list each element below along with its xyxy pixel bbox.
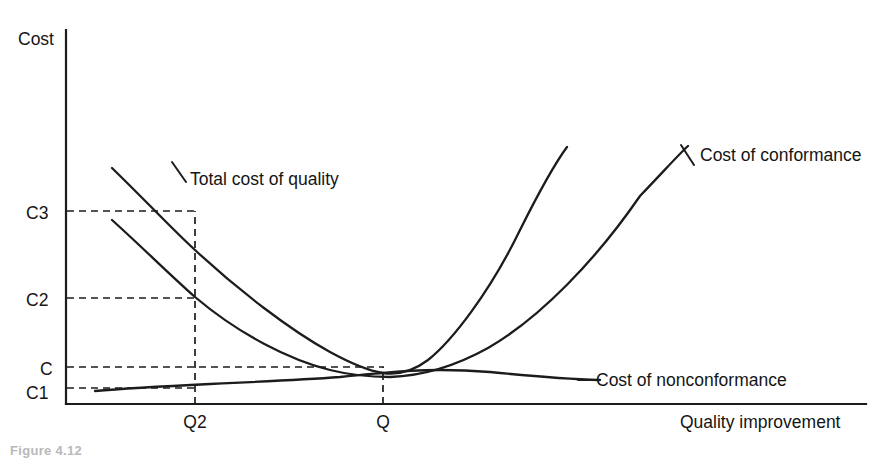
y-tick-label-c1: C1 [26, 383, 48, 403]
figure-root: Cost Quality improvement C3 C2 C C1 Q2 Q… [0, 0, 892, 460]
series-label-cost-of-nonconformance: Cost of nonconformance [596, 370, 787, 390]
y-tick-label-c3: C3 [26, 203, 48, 223]
y-axis-title: Cost [18, 29, 54, 49]
series-label-total-cost-of-quality: Total cost of quality [190, 169, 339, 189]
figure-caption: Figure 4.12 [10, 444, 270, 458]
x-tick-label-q2: Q2 [183, 412, 206, 432]
leader-total-cost-of-quality [172, 162, 186, 182]
x-axis-title: Quality improvement [680, 412, 841, 432]
series-label-cost-of-conformance: Cost of conformance [700, 145, 861, 165]
curve-total-cost-of-quality [112, 147, 567, 374]
y-tick-label-c2: C2 [26, 290, 48, 310]
cost-of-quality-chart: Cost Quality improvement C3 C2 C C1 Q2 Q… [0, 0, 892, 460]
y-tick-label-c: C [40, 359, 53, 379]
x-tick-label-q: Q [376, 412, 390, 432]
